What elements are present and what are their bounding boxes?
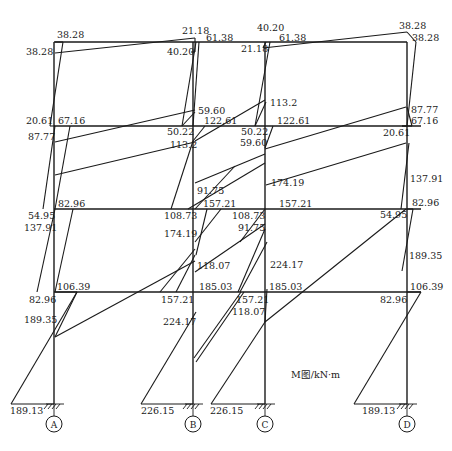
moment-value: 61.38	[279, 32, 306, 43]
moment-value: 157.21	[161, 294, 194, 305]
svg-text:C: C	[262, 420, 269, 430]
moment-segment	[195, 154, 265, 183]
svg-text:A: A	[50, 420, 58, 430]
moment-value: 108.73	[164, 210, 197, 221]
moment-value: 38.28	[412, 32, 439, 43]
moment-value: 157.21	[279, 198, 312, 209]
moment-value: 82.96	[58, 198, 85, 209]
moment-value: 189.35	[409, 250, 442, 261]
moment-value: 38.28	[57, 29, 84, 40]
moment-value: 38.28	[399, 20, 426, 31]
diagram-title: M图/kN·m	[291, 369, 340, 380]
moment-value: 87.77	[411, 104, 438, 115]
moment-value: 108.73	[232, 210, 265, 221]
moment-value: 118.07	[197, 260, 230, 271]
moment-value: 113.2	[170, 139, 197, 150]
moment-segment	[401, 143, 409, 209]
moment-value: 122.61	[204, 115, 237, 126]
moment-value: 38.28	[26, 46, 53, 57]
moment-value: 40.20	[167, 46, 194, 57]
moment-value: 224.17	[270, 259, 303, 270]
moment-segment	[171, 141, 193, 209]
moment-segment	[11, 292, 77, 404]
moment-value: 50.22	[167, 126, 194, 137]
moment-diagram: ABCD 38.2838.2821.1861.3840.2040.2061.38…	[0, 0, 452, 451]
moment-value: 157.21	[203, 198, 236, 209]
moment-value: 185.03	[269, 281, 302, 292]
moment-value: 137.91	[410, 173, 443, 184]
moment-value: 82.96	[380, 294, 407, 305]
moment-value: 54.95	[380, 209, 407, 220]
moment-value: 61.38	[206, 32, 233, 43]
moment-curves	[11, 32, 421, 404]
moment-value: 67.16	[58, 115, 85, 126]
moment-value: 185.03	[199, 281, 232, 292]
moment-value: 137.91	[24, 222, 57, 233]
svg-text:B: B	[190, 420, 197, 430]
moment-value: 189.13	[10, 405, 43, 416]
moment-value: 91.75	[238, 222, 265, 233]
moment-value: 189.35	[24, 314, 57, 325]
moment-value: 82.96	[412, 197, 439, 208]
moment-value: 118.07	[232, 306, 265, 317]
moment-value: 157.21	[236, 294, 269, 305]
moment-value: 82.96	[29, 294, 56, 305]
moment-value: 59.60	[240, 137, 267, 148]
moment-value: 21.18	[241, 43, 268, 54]
moment-segment	[255, 42, 270, 126]
moment-segment	[196, 209, 207, 255]
moment-segment	[160, 249, 195, 292]
moment-segment	[240, 242, 267, 292]
moment-value: 122.61	[277, 115, 310, 126]
moment-value: 224.17	[163, 316, 196, 327]
moment-value: 174.19	[164, 228, 197, 239]
svg-text:D: D	[403, 420, 410, 430]
moment-segment	[195, 209, 221, 242]
moment-value: 226.15	[141, 405, 174, 416]
moment-value: 226.15	[210, 405, 243, 416]
moment-value: 20.61	[26, 115, 53, 126]
moment-value: 20.61	[383, 127, 410, 138]
moment-value: 174.19	[271, 177, 304, 188]
moment-segment	[55, 292, 77, 337]
moment-value: 67.16	[411, 115, 438, 126]
moment-value: 91.75	[197, 185, 224, 196]
moment-value: 189.13	[362, 405, 395, 416]
moment-segment	[354, 292, 421, 404]
moment-value: 106.39	[410, 281, 443, 292]
moment-segment	[55, 126, 70, 209]
moment-value-labels: 38.2838.2821.1861.3840.2040.2061.3821.18…	[10, 20, 443, 416]
moment-value: 87.77	[28, 131, 55, 142]
moment-value: 54.95	[28, 210, 55, 221]
moment-segment	[55, 209, 73, 292]
moment-value: 106.39	[57, 281, 90, 292]
moment-value: 50.22	[241, 126, 268, 137]
moment-value: 113.2	[270, 97, 297, 108]
moment-segment	[194, 292, 241, 358]
moment-segment	[211, 322, 265, 404]
